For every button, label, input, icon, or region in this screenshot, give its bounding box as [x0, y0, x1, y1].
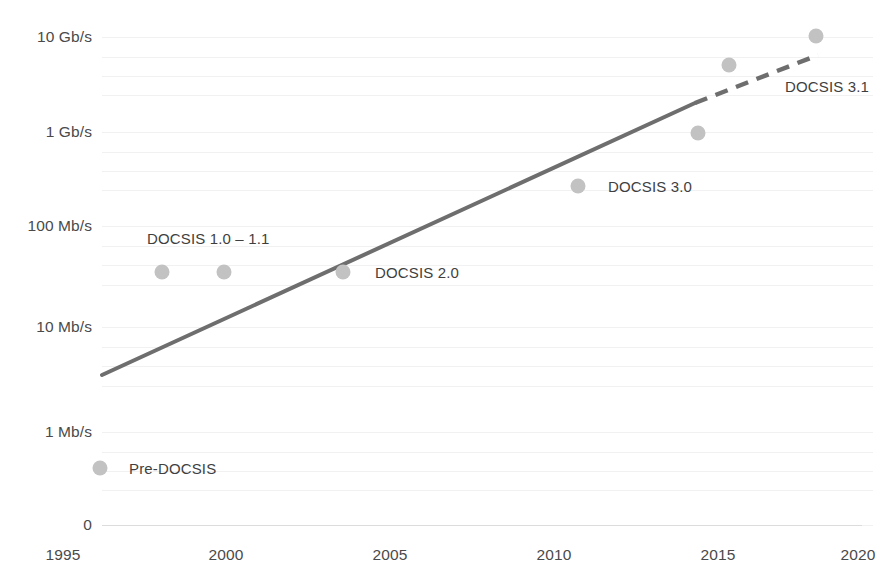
gridline — [102, 347, 873, 348]
gridline — [102, 285, 873, 286]
gridline — [102, 327, 873, 328]
y-axis-tick-label: 10 Gb/s — [37, 28, 92, 46]
trend-line-group — [0, 0, 883, 584]
gridline — [102, 76, 873, 77]
y-axis-tick-label: 1 Gb/s — [46, 123, 92, 141]
gridline — [102, 226, 873, 227]
data-point[interactable] — [93, 461, 108, 476]
y-axis-tick-label: 1 Mb/s — [45, 423, 92, 441]
point-annotation-label: DOCSIS 2.0 — [375, 264, 459, 281]
data-point[interactable] — [809, 29, 824, 44]
point-annotation-label: DOCSIS 3.0 — [608, 178, 692, 195]
docsis-speed-chart: 10 Gb/s1 Gb/s100 Mb/s10 Mb/s1 Mb/s0 1995… — [0, 0, 883, 584]
point-annotation-label: DOCSIS 3.1 — [785, 78, 869, 95]
gridline — [102, 471, 873, 472]
x-axis-tick-label: 2000 — [209, 546, 244, 564]
x-axis-tick-label: 2015 — [701, 546, 736, 564]
x-axis-tick-label: 1995 — [46, 546, 81, 564]
gridline — [102, 37, 873, 38]
data-point[interactable] — [571, 179, 586, 194]
y-axis-tick-label: 0 — [83, 516, 92, 534]
gridline — [102, 452, 873, 453]
gridline — [102, 132, 873, 133]
gridline — [102, 432, 873, 433]
data-point[interactable] — [691, 126, 706, 141]
gridline — [102, 95, 873, 96]
x-axis-tick-label: 2005 — [373, 546, 408, 564]
point-annotation-label: DOCSIS 1.0 – 1.1 — [147, 230, 269, 247]
y-axis-tick-label: 10 Mb/s — [36, 318, 92, 336]
gridline — [102, 366, 873, 367]
gridline — [102, 190, 873, 191]
data-point[interactable] — [336, 265, 351, 280]
point-annotation-label: Pre-DOCSIS — [129, 460, 216, 477]
data-point[interactable] — [155, 265, 170, 280]
gridline — [102, 171, 873, 172]
gridline — [102, 386, 873, 387]
data-point[interactable] — [217, 265, 232, 280]
x-axis-tick-label: 2020 — [841, 546, 876, 564]
x-axis-line — [102, 525, 862, 526]
data-point[interactable] — [722, 58, 737, 73]
x-axis-tick-label: 2010 — [537, 546, 572, 564]
gridline — [102, 57, 873, 58]
gridline — [102, 490, 873, 491]
y-axis-tick-label: 100 Mb/s — [27, 217, 92, 235]
gridline — [102, 152, 873, 153]
